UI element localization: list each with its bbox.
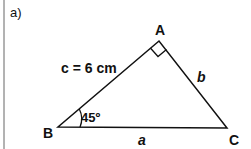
part-label: a) bbox=[10, 5, 22, 20]
right-angle-marker bbox=[151, 48, 167, 56]
vertex-label-c: C bbox=[229, 132, 239, 148]
vertex-label-a: A bbox=[155, 22, 165, 38]
triangle-diagram: a) A B C c = 6 cm b a 45º bbox=[0, 0, 251, 149]
side-c-label: c = 6 cm bbox=[61, 60, 117, 76]
angle-b-label: 45º bbox=[81, 110, 100, 125]
vertex-label-b: B bbox=[43, 125, 53, 141]
side-b-label: b bbox=[197, 69, 206, 85]
side-a-label: a bbox=[138, 132, 146, 148]
